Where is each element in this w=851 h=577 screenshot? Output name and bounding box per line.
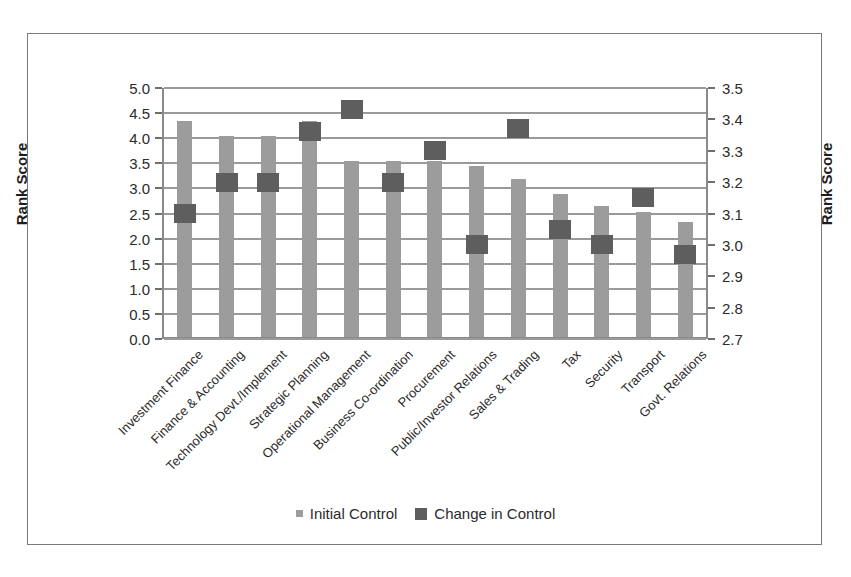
bar-slot[interactable] — [498, 88, 540, 337]
bar-initial-control[interactable] — [511, 179, 526, 337]
bar-slot[interactable] — [414, 88, 456, 337]
plot-area — [162, 88, 708, 339]
left-axis-tick-label: 2.0 — [129, 230, 150, 247]
marker-change-in-control[interactable] — [299, 122, 321, 141]
marker-change-in-control[interactable] — [591, 235, 613, 254]
bar-slot[interactable] — [623, 88, 665, 337]
marker-change-in-control[interactable] — [549, 220, 571, 239]
gridline — [164, 338, 706, 340]
bar-slot[interactable] — [331, 88, 373, 337]
legend-label: Initial Control — [310, 505, 398, 522]
right-axis-tick — [708, 150, 715, 152]
right-axis-tick-label: 3.4 — [722, 111, 743, 128]
bar-slot[interactable] — [581, 88, 623, 337]
bar-slot[interactable] — [664, 88, 706, 337]
marker-change-in-control[interactable] — [507, 119, 529, 138]
left-axis-tick — [155, 313, 162, 315]
legend-item[interactable]: Initial Control — [296, 505, 398, 522]
right-axis-tick — [708, 213, 715, 215]
bar-initial-control[interactable] — [261, 136, 276, 337]
left-axis-title: Rank Score — [13, 143, 30, 226]
left-axis-tick-label: 4.0 — [129, 130, 150, 147]
marker-change-in-control[interactable] — [216, 173, 238, 192]
bar-initial-control[interactable] — [636, 212, 651, 338]
bar-initial-control[interactable] — [219, 136, 234, 337]
marker-change-in-control[interactable] — [424, 141, 446, 160]
bar-initial-control[interactable] — [427, 161, 442, 337]
bar-slot[interactable] — [206, 88, 248, 337]
marker-change-in-control[interactable] — [174, 204, 196, 223]
left-axis-tick — [155, 187, 162, 189]
left-axis-tick — [155, 137, 162, 139]
left-axis-tick — [155, 87, 162, 89]
left-axis-tick — [155, 338, 162, 340]
left-axis-tick-label: 1.0 — [129, 280, 150, 297]
left-axis-tick — [155, 162, 162, 164]
bar-initial-control[interactable] — [302, 121, 317, 337]
right-axis-tick-label: 3.5 — [722, 80, 743, 97]
right-axis-tick — [708, 338, 715, 340]
bar-slot[interactable] — [456, 88, 498, 337]
left-axis-tick — [155, 238, 162, 240]
marker-change-in-control[interactable] — [466, 235, 488, 254]
chart-legend: Initial ControlChange in Control — [28, 505, 823, 522]
legend-label: Change in Control — [434, 505, 555, 522]
bar-initial-control[interactable] — [553, 194, 568, 337]
marker-change-in-control[interactable] — [257, 173, 279, 192]
bar-slot[interactable] — [372, 88, 414, 337]
chart-frame: 0.00.51.01.52.02.53.03.54.04.55.0 2.72.8… — [27, 33, 822, 545]
legend-swatch-initial-control — [296, 510, 303, 517]
right-axis-tick-label: 3.3 — [722, 142, 743, 159]
right-axis-tick — [708, 87, 715, 89]
left-axis-tick-label: 3.0 — [129, 180, 150, 197]
left-axis-tick-label: 3.5 — [129, 155, 150, 172]
right-axis-title: Rank Score — [818, 143, 835, 226]
right-axis-tick-label: 2.7 — [722, 331, 743, 348]
bar-slot[interactable] — [289, 88, 331, 337]
bar-initial-control[interactable] — [594, 206, 609, 337]
bar-slot[interactable] — [247, 88, 289, 337]
bar-initial-control[interactable] — [344, 161, 359, 337]
bar-initial-control[interactable] — [177, 121, 192, 337]
bar-initial-control[interactable] — [678, 222, 693, 337]
left-axis-tick-label: 0.5 — [129, 305, 150, 322]
left-axis-tick-label: 0.0 — [129, 331, 150, 348]
bar-series-group — [164, 88, 706, 337]
marker-change-in-control[interactable] — [674, 245, 696, 264]
right-axis-tick-label: 3.0 — [722, 236, 743, 253]
left-axis-tick-label: 5.0 — [129, 80, 150, 97]
bar-slot[interactable] — [164, 88, 206, 337]
legend-item[interactable]: Change in Control — [415, 505, 555, 522]
marker-change-in-control[interactable] — [632, 188, 654, 207]
marker-change-in-control[interactable] — [341, 100, 363, 119]
legend-swatch-change-in-control — [415, 508, 427, 520]
right-axis-tick — [708, 307, 715, 309]
right-axis-tick-label: 2.8 — [722, 299, 743, 316]
right-axis-tick — [708, 244, 715, 246]
right-axis-tick — [708, 275, 715, 277]
left-axis-tick — [155, 213, 162, 215]
marker-change-in-control[interactable] — [382, 173, 404, 192]
left-axis-tick — [155, 112, 162, 114]
right-axis-tick — [708, 118, 715, 120]
right-axis-tick-label: 3.1 — [722, 205, 743, 222]
right-axis-tick-label: 3.2 — [722, 174, 743, 191]
left-axis-tick — [155, 263, 162, 265]
left-axis-tick-label: 2.5 — [129, 205, 150, 222]
left-axis-tick — [155, 288, 162, 290]
bar-slot[interactable] — [539, 88, 581, 337]
right-axis-tick — [708, 181, 715, 183]
left-axis-tick-label: 1.5 — [129, 255, 150, 272]
x-axis-category-label: Tax — [559, 347, 584, 372]
left-axis-tick-label: 4.5 — [129, 105, 150, 122]
right-axis-tick-label: 2.9 — [722, 268, 743, 285]
